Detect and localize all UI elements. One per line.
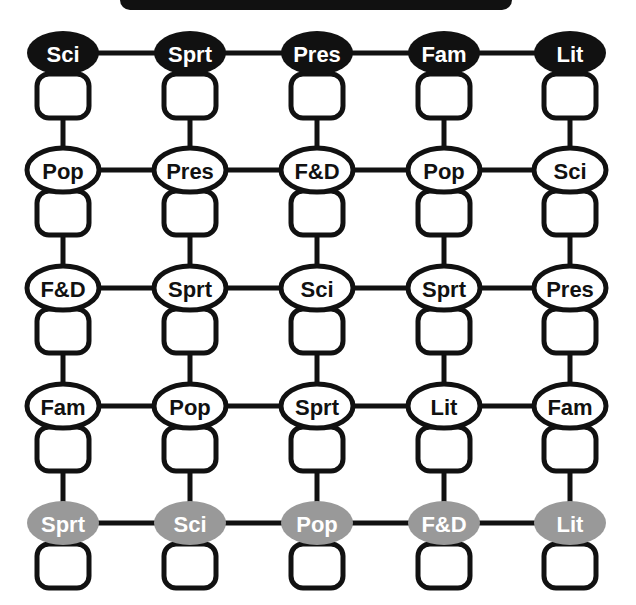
category-label: Pop (296, 512, 338, 537)
category-node[interactable]: Sci (534, 148, 606, 192)
answer-box[interactable] (37, 309, 89, 353)
category-node[interactable]: Pop (154, 384, 226, 428)
category-label: Fam (547, 395, 592, 420)
category-node[interactable]: Sci (281, 266, 353, 310)
category-node[interactable]: Pres (154, 148, 226, 192)
category-label: Pres (166, 159, 214, 184)
answer-box[interactable] (544, 544, 596, 588)
answer-box[interactable] (418, 309, 470, 353)
category-node[interactable]: Pop (408, 148, 480, 192)
category-label: Pres (293, 42, 341, 67)
answer-box[interactable] (544, 309, 596, 353)
answer-box[interactable] (291, 427, 343, 471)
category-label: F&D (40, 277, 85, 302)
answer-box[interactable] (291, 309, 343, 353)
category-label: Pop (423, 159, 465, 184)
answer-box[interactable] (37, 74, 89, 118)
category-node[interactable]: Sci (154, 501, 226, 545)
category-label: Sprt (168, 277, 213, 302)
category-label: Lit (557, 42, 585, 67)
category-node[interactable]: Sprt (408, 266, 480, 310)
answer-box[interactable] (418, 544, 470, 588)
answer-box[interactable] (164, 74, 216, 118)
category-node[interactable]: Sci (27, 31, 99, 75)
category-node[interactable]: Fam (534, 384, 606, 428)
answer-box[interactable] (544, 191, 596, 235)
category-label: Pop (42, 159, 84, 184)
category-node[interactable]: F&D (281, 148, 353, 192)
answer-box[interactable] (291, 74, 343, 118)
category-node[interactable]: Lit (534, 31, 606, 75)
answer-box[interactable] (544, 74, 596, 118)
category-grid-diagram: SciSprtPresFamLitPopPresF&DPopSciF&DSprt… (0, 0, 636, 605)
category-label: F&D (421, 512, 466, 537)
diagram-canvas: SciSprtPresFamLitPopPresF&DPopSciF&DSprt… (0, 0, 636, 605)
category-node[interactable]: Lit (534, 501, 606, 545)
category-label: F&D (294, 159, 339, 184)
answer-box[interactable] (37, 544, 89, 588)
category-label: Sprt (41, 512, 86, 537)
category-label: Fam (421, 42, 466, 67)
category-node[interactable]: Sprt (154, 266, 226, 310)
category-label: Lit (431, 395, 459, 420)
category-label: Pres (546, 277, 594, 302)
category-label: Sprt (168, 42, 213, 67)
category-node[interactable]: Pres (534, 266, 606, 310)
category-node[interactable]: Fam (27, 384, 99, 428)
answer-box[interactable] (544, 427, 596, 471)
answer-box[interactable] (418, 427, 470, 471)
category-label: Pop (169, 395, 211, 420)
answer-box[interactable] (164, 544, 216, 588)
category-label: Sci (300, 277, 333, 302)
answer-box[interactable] (37, 427, 89, 471)
category-node[interactable]: Fam (408, 31, 480, 75)
answer-box[interactable] (291, 544, 343, 588)
category-node[interactable]: Lit (408, 384, 480, 428)
category-node[interactable]: F&D (408, 501, 480, 545)
category-node[interactable]: F&D (27, 266, 99, 310)
category-node[interactable]: Sprt (27, 501, 99, 545)
answer-box[interactable] (291, 191, 343, 235)
answer-box[interactable] (418, 191, 470, 235)
answer-box[interactable] (164, 309, 216, 353)
answer-box[interactable] (37, 191, 89, 235)
category-label: Sci (553, 159, 586, 184)
answer-box[interactable] (418, 74, 470, 118)
category-node[interactable]: Sprt (281, 384, 353, 428)
category-label: Sci (46, 42, 79, 67)
category-label: Fam (40, 395, 85, 420)
answer-box[interactable] (164, 191, 216, 235)
category-label: Sci (173, 512, 206, 537)
category-label: Sprt (422, 277, 467, 302)
answer-box[interactable] (164, 427, 216, 471)
category-node[interactable]: Sprt (154, 31, 226, 75)
category-node[interactable]: Pop (281, 501, 353, 545)
category-label: Sprt (295, 395, 340, 420)
category-node[interactable]: Pres (281, 31, 353, 75)
category-label: Lit (557, 512, 585, 537)
category-node[interactable]: Pop (27, 148, 99, 192)
